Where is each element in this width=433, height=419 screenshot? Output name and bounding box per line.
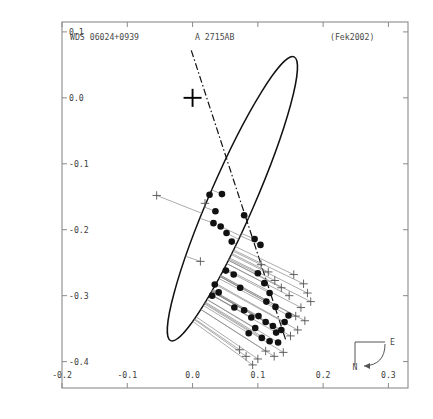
x-tick-label: 0.1 xyxy=(250,370,265,380)
residual-line xyxy=(207,299,255,328)
data-point-interferometric xyxy=(252,325,259,332)
data-point-interferometric xyxy=(206,191,213,198)
y-tick-label: -0.4 xyxy=(69,357,89,367)
compass-direction-arc xyxy=(364,344,385,366)
compass-arrow-head xyxy=(364,363,370,369)
data-point-interferometric xyxy=(231,304,238,311)
x-tick-label: 0.3 xyxy=(381,370,396,380)
residual-line xyxy=(219,278,289,315)
data-point-interferometric xyxy=(212,208,219,215)
residual-line xyxy=(196,317,258,359)
orbit-plot-canvas: -0.2-0.10.00.10.20.3-0.4-0.3-0.2-0.10.00… xyxy=(0,0,433,419)
data-point-interferometric xyxy=(223,267,230,274)
data-point-interferometric xyxy=(245,330,252,337)
data-point-interferometric xyxy=(257,242,264,249)
data-point-interferometric xyxy=(285,312,292,319)
data-point-interferometric xyxy=(241,307,248,314)
data-point-interferometric xyxy=(248,314,255,321)
data-point-interferometric xyxy=(263,298,270,305)
y-tick-label: -0.3 xyxy=(69,291,89,301)
data-point-interferometric xyxy=(275,339,282,346)
x-tick-label: -0.1 xyxy=(117,370,137,380)
residual-line xyxy=(157,195,202,213)
x-tick-label: 0.0 xyxy=(185,370,200,380)
orbit-plot-figure: -0.2-0.10.00.10.20.3-0.4-0.3-0.2-0.10.00… xyxy=(0,0,433,419)
series-interferometric-measures xyxy=(206,191,292,346)
data-point-interferometric xyxy=(255,270,262,277)
data-point-interferometric xyxy=(266,290,273,297)
data-point-interferometric xyxy=(223,230,230,237)
compass-east-label: E xyxy=(390,337,395,347)
residual-line xyxy=(186,256,201,261)
data-point-interferometric xyxy=(217,223,224,230)
data-point-interferometric xyxy=(266,338,273,345)
data-point-interferometric xyxy=(215,289,222,296)
orbit-ellipse xyxy=(150,48,315,350)
data-point-interferometric xyxy=(211,281,218,288)
y-tick-label: -0.2 xyxy=(69,225,89,235)
data-point-interferometric xyxy=(209,292,216,299)
data-point-interferometric xyxy=(262,319,269,326)
data-point-interferometric xyxy=(261,280,268,287)
data-point-interferometric xyxy=(258,335,265,342)
data-point-interferometric xyxy=(278,327,285,334)
y-tick-label: -0.1 xyxy=(69,159,89,169)
compass-rose xyxy=(355,342,385,369)
data-point-interferometric xyxy=(210,220,217,227)
x-tick-label: 0.2 xyxy=(316,370,331,380)
wds-designation-label: WDS 06024+0939 xyxy=(70,32,139,42)
data-point-interferometric xyxy=(228,238,235,245)
data-point-interferometric xyxy=(219,191,226,198)
discoverer-designation-label: A 2715AB xyxy=(195,32,235,42)
data-point-interferometric xyxy=(241,212,248,219)
data-point-interferometric xyxy=(270,323,277,330)
data-point-interferometric xyxy=(255,313,262,320)
x-tick-label: -0.2 xyxy=(52,370,72,380)
residual-line xyxy=(234,250,304,284)
y-tick-label: 0.0 xyxy=(69,93,84,103)
data-point-interferometric xyxy=(251,236,258,243)
data-point-interferometric xyxy=(237,284,244,291)
compass-north-label: N xyxy=(353,362,358,372)
plot-frame xyxy=(62,22,408,388)
data-point-interferometric xyxy=(281,319,288,326)
orbit-reference-label: (Fek2002) xyxy=(330,32,374,42)
data-point-interferometric xyxy=(230,271,237,278)
data-point-interferometric xyxy=(272,304,279,311)
